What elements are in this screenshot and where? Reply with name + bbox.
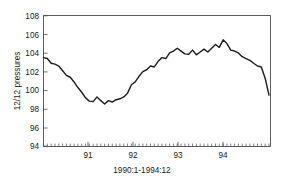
chart-figure: 108 106 104 102 100 98 96 94 91 92 93 94… [0, 0, 284, 180]
y-tick-label: 104 [25, 49, 39, 58]
y-tick-label: 96 [30, 124, 40, 133]
x-tick-label: 91 [83, 151, 93, 160]
y-axis-tick-labels: 108 106 104 102 100 98 96 94 [25, 12, 39, 151]
y-tick-label: 94 [30, 142, 40, 151]
x-axis-title: 1990:1-1994:12 [113, 166, 171, 175]
y-tick-label: 108 [25, 12, 39, 21]
y-tick-label: 102 [25, 68, 39, 77]
y-tick-label: 98 [30, 105, 40, 114]
x-tick-label: 94 [218, 151, 228, 160]
y-tick-label: 106 [25, 31, 39, 40]
x-axis-tick-labels: 91 92 93 94 [83, 151, 228, 160]
y-axis-title: 12/12 pressures [13, 52, 22, 111]
x-tick-label: 93 [173, 151, 183, 160]
data-series-line [44, 40, 269, 104]
x-tick-label: 92 [128, 151, 138, 160]
plot-frame [44, 16, 271, 147]
y-axis-ticks [44, 16, 48, 146]
y-tick-label: 100 [25, 86, 39, 95]
line-chart: 108 106 104 102 100 98 96 94 91 92 93 94… [0, 0, 284, 180]
